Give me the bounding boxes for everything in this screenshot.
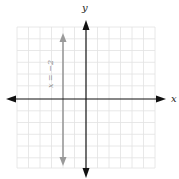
- coordinate-plane-figure: x = −2 x y: [0, 0, 179, 179]
- line-arrow-up-icon: [60, 33, 67, 42]
- x-axis-label: x: [171, 93, 177, 104]
- y-axis-label: y: [81, 2, 88, 13]
- coordinate-plane: x = −2 x y: [0, 0, 179, 179]
- line-equation-label: x = −2: [46, 60, 55, 88]
- x-axis-arrow-right-icon: [156, 96, 166, 103]
- line-arrow-down-icon: [60, 157, 67, 166]
- x-axis-arrow-left-icon: [6, 96, 16, 103]
- y-axis-arrow-down-icon: [83, 168, 90, 178]
- y-axis-arrow-up-icon: [83, 20, 90, 30]
